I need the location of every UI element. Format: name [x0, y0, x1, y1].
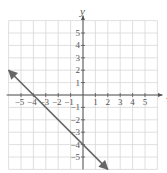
y-tick-label: 4 [76, 40, 81, 50]
coordinate-plane: −5−4−3−2−112345 −5−4−3−2−112345 x y [0, 0, 167, 173]
y-tick-label: 3 [76, 53, 81, 63]
x-tick-label: 3 [118, 97, 123, 107]
x-tick-label: 2 [106, 97, 111, 107]
x-tick-label: −2 [52, 97, 62, 107]
x-tick-label: 1 [93, 97, 98, 107]
y-tick-label: 2 [76, 65, 81, 75]
y-tick-label: −3 [70, 127, 80, 137]
x-tick-label: 4 [130, 97, 135, 107]
y-tick-label: −1 [70, 102, 80, 112]
x-tick-label: 5 [143, 97, 148, 107]
x-axis-label: x [165, 89, 167, 101]
y-tick-label: −5 [70, 152, 80, 162]
y-tick-label: 1 [76, 78, 81, 88]
y-tick-label: −2 [70, 115, 80, 125]
y-axis-label: y [79, 5, 85, 17]
x-tick-label: −5 [15, 97, 25, 107]
y-tick-label: 5 [76, 28, 81, 38]
x-tick-label: −4 [27, 97, 37, 107]
x-tick-labels: −5−4−3−2−112345 [15, 97, 148, 107]
